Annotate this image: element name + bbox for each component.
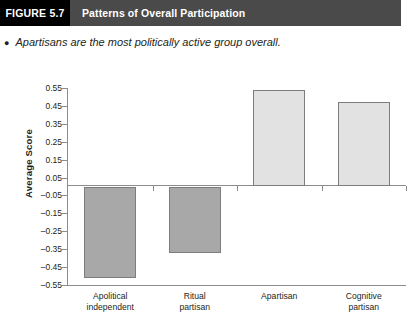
y-axis-tick-mark bbox=[62, 160, 68, 161]
x-axis-category-label: Apoliticalindependent bbox=[68, 291, 153, 313]
y-axis-tick-label: –0.25 bbox=[41, 226, 62, 236]
y-axis-tick-label: 0.55 bbox=[45, 83, 62, 93]
x-axis-tick-mark bbox=[237, 186, 238, 191]
y-axis-tick-labels: 0.550.450.350.250.150.05–0.05–0.15–0.25–… bbox=[30, 88, 62, 285]
bar bbox=[169, 187, 221, 253]
y-axis-tick-label: 0.25 bbox=[45, 137, 62, 147]
x-axis-tick-mark bbox=[153, 186, 154, 191]
bar bbox=[84, 187, 136, 278]
y-axis-tick-label: 0.45 bbox=[45, 101, 62, 111]
y-axis-tick-label: 0.35 bbox=[45, 119, 62, 129]
y-axis-tick-mark bbox=[62, 231, 68, 232]
bar-chart: Average Score 0.550.450.350.250.150.05–0… bbox=[0, 0, 416, 329]
y-axis-tick-mark bbox=[62, 142, 68, 143]
y-axis-tick-mark bbox=[62, 124, 68, 125]
y-axis-tick-mark bbox=[62, 178, 68, 179]
y-axis-tick-label: –0.15 bbox=[41, 208, 62, 218]
y-axis-line bbox=[67, 88, 68, 286]
y-axis-tick-mark bbox=[62, 195, 68, 196]
x-axis-line bbox=[67, 285, 406, 286]
y-axis-tick-label: 0.05 bbox=[45, 173, 62, 183]
y-axis-tick-mark bbox=[62, 88, 68, 89]
y-axis-tick-label: –0.05 bbox=[41, 190, 62, 200]
y-axis-tick-mark bbox=[62, 249, 68, 250]
bar bbox=[253, 90, 305, 187]
x-axis-category-label: Apartisan bbox=[237, 291, 322, 302]
x-axis-category-label: Cognitivepartisan bbox=[322, 291, 407, 313]
y-axis-tick-label: –0.45 bbox=[41, 262, 62, 272]
x-axis-category-label: Ritualpartisan bbox=[153, 291, 238, 313]
y-axis-tick-mark bbox=[62, 267, 68, 268]
y-axis-tick-label: –0.55 bbox=[41, 280, 62, 290]
y-axis-tick-mark bbox=[62, 285, 68, 286]
bar bbox=[338, 102, 390, 186]
x-axis-tick-mark bbox=[406, 186, 407, 191]
y-axis-tick-mark bbox=[62, 106, 68, 107]
y-axis-tick-label: 0.15 bbox=[45, 155, 62, 165]
y-axis-tick-mark bbox=[62, 213, 68, 214]
y-axis-tick-label: –0.35 bbox=[41, 244, 62, 254]
x-axis-tick-mark bbox=[322, 186, 323, 191]
